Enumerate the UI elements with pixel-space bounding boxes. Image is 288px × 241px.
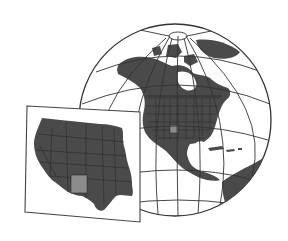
highlighted-state-inset <box>71 175 87 193</box>
map-figure: Orthographic globe of North America with… <box>0 0 288 241</box>
map-canvas <box>0 0 288 241</box>
inset-map <box>25 106 140 222</box>
